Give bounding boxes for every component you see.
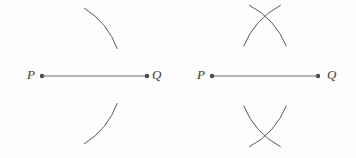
point-label-q-right: Q	[327, 68, 336, 81]
point-label-p-left: P	[27, 68, 35, 81]
point-q-dot	[316, 74, 320, 78]
figure-right	[210, 5, 320, 146]
diagram-canvas: P Q P Q	[0, 0, 356, 158]
point-q-dot	[145, 74, 149, 78]
lower-arc-icon	[84, 103, 117, 143]
geometry-drawing	[0, 0, 356, 158]
upper-arc-icon	[84, 8, 117, 48]
point-p-dot	[210, 74, 214, 78]
point-label-q-left: Q	[152, 68, 161, 81]
point-label-p-right: P	[197, 68, 205, 81]
figure-left	[40, 8, 149, 144]
point-p-dot	[40, 74, 44, 78]
